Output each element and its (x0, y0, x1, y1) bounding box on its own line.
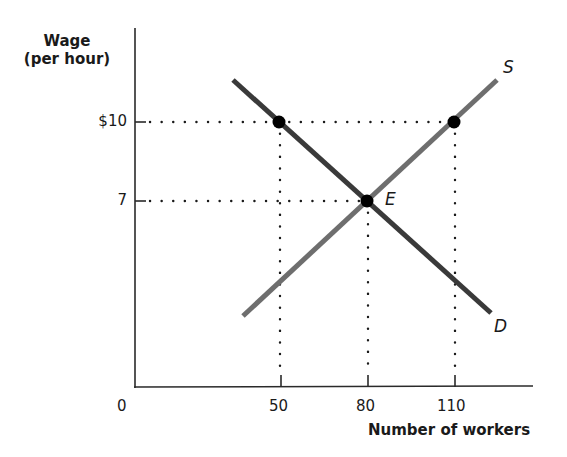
x-tick-label-80: 80 (356, 397, 375, 415)
y-axis-title: Wage (per hour) (12, 32, 122, 68)
y-tick-label-7: 7 (117, 191, 127, 209)
point-supply-wage-10 (448, 116, 461, 129)
origin-label: 0 (117, 397, 127, 415)
axes (134, 28, 533, 388)
chart-canvas (0, 0, 567, 457)
point-demand-wage-10 (273, 116, 286, 129)
y-tick-label-10: $10 (98, 112, 127, 130)
x-tick-label-50: 50 (269, 397, 288, 415)
x-axis (134, 386, 533, 387)
data-points (273, 116, 461, 208)
y-axis-title-line2: (per hour) (12, 50, 122, 68)
demand-curve (233, 80, 491, 313)
x-tick-label-110: 110 (437, 397, 466, 415)
demand-label: D (494, 316, 507, 336)
supply-label: S (503, 57, 514, 77)
equilibrium-label: E (385, 189, 396, 209)
point-equilibrium (361, 195, 374, 208)
y-axis-title-line1: Wage (12, 32, 122, 50)
x-axis-title: Number of workers (368, 421, 530, 439)
